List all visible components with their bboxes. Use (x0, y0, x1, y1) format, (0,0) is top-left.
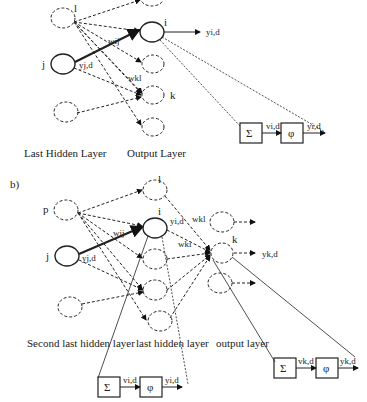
caption-output-layer: Output Layer (127, 147, 186, 159)
label-yjd-a: yj,d (79, 60, 93, 70)
phi-i-b: φ (147, 381, 153, 393)
node-out1-b (210, 212, 234, 232)
label-wkl-a: wkl (128, 73, 142, 83)
label-yjd-b: yj,d (82, 253, 96, 263)
node-l-a (51, 8, 75, 28)
panel-b-tag: b) (10, 178, 20, 191)
node-j-a (51, 54, 75, 74)
node-out4-a (142, 118, 164, 136)
phi-k-b: φ (323, 362, 329, 374)
neural-network-diagram: l i j k wij wkl yj,d yi,d Σ vi,d φ yi,d … (0, 0, 367, 402)
v-k-b: vk,d (298, 356, 314, 366)
sum-a: Σ (246, 127, 252, 139)
node-bottom-b (58, 297, 82, 317)
node-out3-b (208, 273, 232, 293)
label-i-b: i (158, 205, 161, 217)
y-k-b: yk,d (340, 356, 356, 366)
caption-last-hidden-layer-b: last hidden layer (136, 337, 209, 349)
panel-a (51, 0, 325, 143)
node-j-b (55, 246, 79, 266)
node-k-b (211, 243, 233, 263)
label-wkl-b: wkl (192, 214, 206, 224)
node-i-b (143, 218, 167, 238)
label-i-a: i (164, 16, 167, 28)
label-k-a: k (170, 89, 176, 101)
label-j-a: j (41, 58, 45, 70)
label-wij-a: wij (108, 36, 120, 46)
node-out2-a (142, 55, 164, 73)
v-i-b: vi,d (123, 375, 137, 385)
label-wki-b: wki (178, 239, 192, 249)
caption-second-last-hidden-layer: Second last hidden layer (27, 337, 135, 349)
sum-i-b: Σ (104, 381, 110, 393)
label-ykd-b: yk,d (262, 249, 278, 259)
label-l-a: l (74, 2, 77, 14)
label-l-b: l (158, 173, 161, 185)
label-wij-b: wij (113, 228, 125, 238)
caption-last-hidden-layer: Last Hidden Layer (24, 147, 107, 159)
node-i-a (140, 22, 164, 42)
caption-output-layer-b: output layer (216, 337, 269, 349)
node-mid3-b (143, 249, 167, 269)
v-a: vi,d (266, 121, 280, 131)
node-bottom-a (54, 102, 78, 122)
label-j-b: j (45, 250, 49, 262)
label-yid-a: yi,d (206, 27, 220, 37)
panel-b-text: b) p l i j k wij wkl wki yj,d yi,d yk,d … (10, 173, 356, 393)
y-i-b: yi,d (165, 375, 179, 385)
node-mid5-b (148, 311, 172, 331)
sum-k-b: Σ (280, 362, 286, 374)
label-p-b: p (43, 203, 49, 215)
node-l-b (143, 180, 167, 200)
phi-a: φ (288, 127, 294, 139)
panel-a-text: l i j k wij wkl yj,d yi,d Σ vi,d φ yi,d … (24, 2, 321, 159)
label-k-b: k (232, 233, 238, 245)
node-top-partial (140, 0, 164, 6)
node-mid4-b (143, 280, 167, 300)
label-yid-b: yi,d (170, 216, 184, 226)
node-p-b (54, 200, 78, 220)
y-a: yi,d (307, 121, 321, 131)
node-k-a (142, 86, 164, 104)
